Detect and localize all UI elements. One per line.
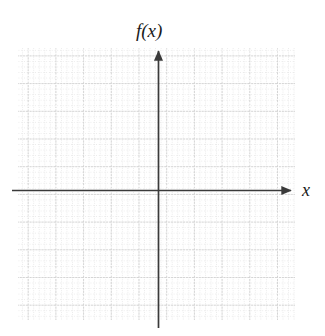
x-axis-label: x [302, 181, 310, 199]
grid-lines [18, 48, 295, 320]
y-axis-label: f(x) [136, 21, 162, 40]
coordinate-plane-svg [0, 0, 325, 336]
grid-major-lines [18, 48, 295, 320]
coordinate-grid-figure: f(x) x [0, 0, 325, 336]
